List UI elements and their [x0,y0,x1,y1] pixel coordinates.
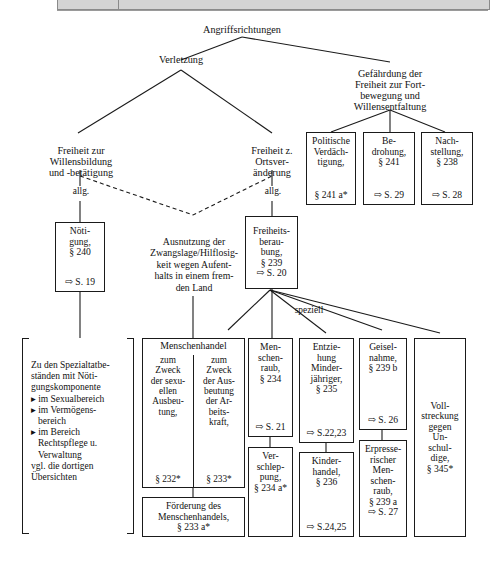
bracket-bullet: ▸ im Vermögens- bereich [31,405,125,427]
box-line: Politische [307,136,355,147]
box-paragraph-ref: § 240 [56,247,104,258]
box-paragraph-ref: § 345* [415,464,465,475]
menschenhandel-column-arbeitskraft: zum Zweck der Aus- beutung der Ar- beits… [194,355,244,487]
box-line: beits- [194,407,244,417]
box-line: Ausbeu- [143,396,193,406]
box-page-ref: ⇨ S. 26 [360,415,406,426]
box-foerderung-menschenhandels[interactable]: Förderung des Menschenhandels, § 233 a* [142,497,245,537]
box-line: Ver- [249,451,292,462]
box-paragraph-ref: § 234 [249,374,292,385]
box-page-ref: ⇨ S. 21 [249,422,292,433]
node-verletzung: Verletzung [141,54,221,65]
bracket-right [127,338,134,534]
node-root-label: Angriffsrichtungen [203,24,281,35]
menschenhandel-column-sexuell: zum Zweck der sexu- ellen Ausbeu- tung, … [143,355,194,487]
box-paragraph-ref: § 233* [194,474,244,484]
box-paragraph-ref: § 235 [300,384,353,395]
menschenhandel-title: Menschenhandel [143,339,244,355]
node-ausnutzung-label: Ausnutzung der Zwangslage/Hilflosig- kei… [150,236,238,293]
box-noetigung[interactable]: Nöti- gung, § 240 ⇨ S. 19 [55,222,105,292]
box-page-ref: ⇨ S. 20 [246,268,297,279]
node-freiheit-ortsveraenderung-label: Freiheit z. Ortsver- änderung [251,145,292,178]
diagram-page: Angriffsrichtungen Verletzung Gefährdung… [0,0,491,561]
box-line: der Aus- [194,376,244,386]
box-line: Zweck [143,365,193,375]
box-erpresserischer-menschenraub[interactable]: Erpresse- rischer Men- schen- raub, § 23… [359,440,407,537]
box-paragraph-ref: § 239 b [360,363,406,374]
box-paragraph-ref: § 234 a* [249,483,292,494]
box-page-ref: ⇨ S. 29 [364,190,414,201]
box-line: ellen [143,386,193,396]
node-ausnutzung: Ausnutzung der Zwangslage/Hilflosig- kei… [126,224,262,293]
node-root: Angriffsrichtungen [182,24,302,35]
box-page-ref: ⇨ S.22,23 [300,428,353,439]
box-paragraph-ref: § 241 [364,157,414,168]
allg-left-text: allg. [73,186,89,196]
box-page-ref: ⇨ S. 28 [422,190,472,201]
edge-label-speziell: speziell [282,305,336,315]
box-line: Be- [364,136,414,147]
node-gefaehrdung: Gefährdung der Freiheit zur Fort- bewegu… [330,57,450,112]
box-line: Nöti- [56,226,104,237]
box-line: Entzie- [300,342,353,353]
box-line: Nach- [422,136,472,147]
allg-right-text: allg. [265,186,281,196]
node-freiheit-ortsveraenderung: Freiheit z. Ortsver- änderung [232,134,312,178]
box-line: Men- [249,342,292,353]
box-menschenhandel[interactable]: Menschenhandel zum Zweck der sexu- ellen… [142,338,245,488]
box-menschenraub[interactable]: Men- schen- raub, § 234 ⇨ S. 21 [248,338,293,437]
box-line: Geisel- [360,342,406,353]
edge-label-allg-right: allg. [252,186,294,196]
box-line: der Ar- [194,396,244,406]
box-line: der sexu- [143,376,193,386]
box-bedrohung[interactable]: Be- drohung, § 241 ⇨ S. 29 [363,132,415,205]
foerderung-text: Förderung des Menschenhandels, § 233 a* [143,501,244,533]
box-geiselnahme[interactable]: Geisel- nahme, § 239 b ⇨ S. 26 [359,338,407,430]
bracket-text: Zu den Spezialtatbe- ständen mit Nöti- g… [31,360,125,483]
box-politische-verdaechtigung[interactable]: Politische Verdäch- tigung, § 241 a* [306,132,356,205]
box-paragraph-ref: § 236 [300,477,353,488]
box-line: tung, [143,407,193,417]
box-paragraph-ref: § 232* [143,474,193,484]
box-verschleppung[interactable]: Ver- schlep- pung, § 234 a* [248,447,293,537]
box-line: kraft, [194,417,244,427]
bracket-left [22,338,29,534]
bracket-bullet: ▸ im Bereich Rechtspflege u. Verwaltung [31,427,125,461]
box-page-ref: ⇨ S. 19 [56,277,104,288]
node-freiheit-willensbildung: Freiheit zur Willensbildung und -betätig… [25,134,137,178]
box-line: tigung, [307,157,355,168]
box-vollstreckung-gegen-unschuldige[interactable]: Voll- streckung gegen Un- schul- dige, §… [414,338,466,537]
box-line: zum [143,355,193,365]
bracket-outro: vgl. die dortigen Übersichten [31,461,125,483]
box-page-ref: ⇨ S. 27 [360,507,406,518]
bracket-bullet: ▸ im Sexualbereich [31,394,125,405]
bracket-intro: Zu den Spezialtatbe- ständen mit Nöti- g… [31,360,125,394]
box-line: Erpresse- [360,444,406,455]
box-line: Kinder- [300,456,353,467]
box-line: Zweck [194,365,244,375]
box-kinderhandel[interactable]: Kinder- handel, § 236 ⇨ S.24,25 [299,452,354,537]
edge-label-allg-left: allg. [60,186,102,196]
bracket-panel-spezialtatbestaende: Zu den Spezialtatbe- ständen mit Nöti- g… [22,338,134,534]
node-verletzung-label: Verletzung [159,54,203,65]
box-nachstellung[interactable]: Nach- stellung, § 238 ⇨ S. 28 [421,132,473,205]
box-entziehung-minderjaehriger[interactable]: Entzie- hung Minder- jähriger, § 235 ⇨ S… [299,338,354,443]
node-freiheit-willensbildung-label: Freiheit zur Willensbildung und -betätig… [49,145,113,178]
box-page-ref: ⇨ S.24,25 [300,522,353,533]
box-paragraph-ref: § 238 [422,157,472,168]
box-line: zum [194,355,244,365]
node-gefaehrdung-label: Gefährdung der Freiheit zur Fort- bewegu… [354,68,427,112]
box-freiheitsberaubung[interactable]: Freiheits- berau- bung, § 239 ⇨ S. 20 [245,216,298,289]
box-paragraph-ref: § 241 a* [307,190,355,201]
box-line: beutung [194,386,244,396]
speziell-text: speziell [295,305,324,315]
